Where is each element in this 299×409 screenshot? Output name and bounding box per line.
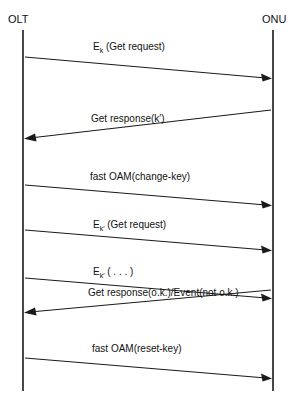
message-2-label-main: Get response(k′) xyxy=(91,113,165,124)
message-4-label: Ek′ (Get request) xyxy=(93,219,166,232)
message-5-label: Ek′ ( . . . ) xyxy=(93,266,133,279)
message-6: Get response(o.k.)/Event(not o.k.) xyxy=(24,287,271,316)
message-1-label: Ek (Get request) xyxy=(93,41,165,54)
message-7-arrowhead xyxy=(261,374,272,382)
message-3: fast OAM(change-key) xyxy=(25,171,272,209)
message-1-line xyxy=(25,57,266,78)
message-1: Ek (Get request) xyxy=(25,41,272,82)
message-6-label-main: Get response(o.k.)/Event(not o.k.) xyxy=(88,287,239,298)
message-3-label: fast OAM(change-key) xyxy=(90,171,190,182)
message-4: Ek′ (Get request) xyxy=(25,219,272,254)
message-6-label: Get response(o.k.)/Event(not o.k.) xyxy=(88,287,239,298)
message-6-arrowhead xyxy=(24,308,37,316)
message-5-arrowhead xyxy=(261,294,272,302)
sequence-diagram: OLT ONU Ek (Get request) Get response(k′… xyxy=(0,0,299,409)
message-3-arrowhead xyxy=(261,201,272,209)
message-2: Get response(k′) xyxy=(24,110,271,142)
message-7: fast OAM(reset-key) xyxy=(25,343,272,382)
lifeline-label-onu: ONU xyxy=(262,13,287,25)
message-7-line xyxy=(25,358,266,378)
message-2-label: Get response(k′) xyxy=(91,113,165,124)
message-4-line xyxy=(25,230,266,250)
message-2-arrowhead xyxy=(24,134,37,142)
message-7-label: fast OAM(reset-key) xyxy=(92,343,181,354)
message-7-label-main: fast OAM(reset-key) xyxy=(92,343,181,354)
message-1-label-tail: (Get request) xyxy=(103,41,165,52)
message-3-label-main: fast OAM(change-key) xyxy=(90,171,190,182)
message-1-arrowhead xyxy=(261,74,272,82)
message-3-line xyxy=(25,185,266,205)
message-5-label-tail: ( . . . ) xyxy=(104,266,133,277)
lifeline-label-olt: OLT xyxy=(8,13,29,25)
message-4-label-tail: (Get request) xyxy=(104,219,166,230)
message-4-arrowhead xyxy=(261,246,272,254)
sequence-diagram-canvas: OLT ONU Ek (Get request) Get response(k′… xyxy=(0,0,299,409)
